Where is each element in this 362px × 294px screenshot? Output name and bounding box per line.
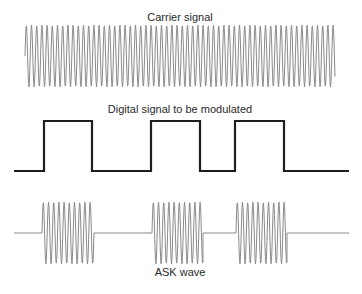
carrier-signal-label: Carrier signal bbox=[147, 11, 212, 23]
digital-signal-label: Digital signal to be modulated bbox=[108, 103, 252, 115]
ask-waveform bbox=[14, 202, 349, 264]
ask-wave-label: ASK wave bbox=[155, 266, 206, 278]
digital-square-wave bbox=[14, 121, 349, 171]
ask-modulation-diagram bbox=[0, 0, 362, 294]
carrier-waveform bbox=[25, 25, 335, 87]
